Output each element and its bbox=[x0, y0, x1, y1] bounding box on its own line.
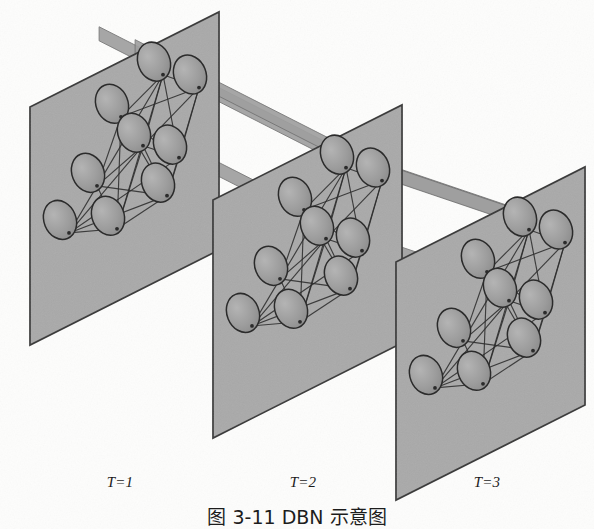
node-anchor-dot bbox=[461, 339, 465, 343]
node-anchor-dot bbox=[177, 156, 181, 160]
node-anchor-dot bbox=[250, 324, 254, 328]
node-anchor-dot bbox=[67, 231, 71, 235]
node-anchor-dot bbox=[543, 311, 547, 315]
node-anchor-dot bbox=[324, 237, 328, 241]
figure-root: T=1T=2T=3 图 3-11 DBN 示意图 bbox=[0, 0, 594, 529]
node-anchor-dot bbox=[141, 144, 145, 148]
node-anchor-dot bbox=[298, 320, 302, 324]
slice-label-t3: T=3 bbox=[474, 474, 501, 490]
node-anchor-dot bbox=[563, 241, 567, 245]
node-anchor-dot bbox=[481, 382, 485, 386]
node-anchor-dot bbox=[380, 179, 384, 183]
slice-label-t2: T=2 bbox=[290, 474, 317, 490]
node-anchor-dot bbox=[531, 349, 535, 353]
node-anchor-dot bbox=[527, 228, 531, 232]
node-anchor-dot bbox=[278, 277, 282, 281]
node-anchor-dot bbox=[344, 166, 348, 170]
node-anchor-dot bbox=[197, 86, 201, 90]
node-anchor-dot bbox=[507, 299, 511, 303]
node-anchor-dot bbox=[115, 227, 119, 231]
node-anchor-dot bbox=[360, 249, 364, 253]
node-anchor-dot bbox=[161, 73, 165, 77]
caption-layer: 图 3-11 DBN 示意图 bbox=[207, 506, 386, 528]
dbn-diagram: T=1T=2T=3 图 3-11 DBN 示意图 bbox=[0, 0, 594, 529]
figure-caption: 图 3-11 DBN 示意图 bbox=[207, 506, 386, 528]
node-anchor-dot bbox=[165, 194, 169, 198]
slice-label-t1: T=1 bbox=[107, 474, 134, 490]
node-anchor-dot bbox=[95, 184, 99, 188]
node-anchor-dot bbox=[348, 287, 352, 291]
node-anchor-dot bbox=[433, 386, 437, 390]
